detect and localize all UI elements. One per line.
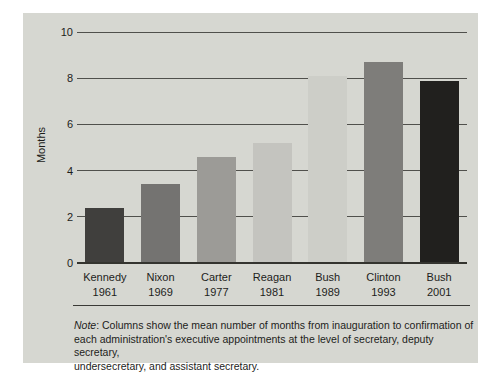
y-axis-title: Months xyxy=(35,127,47,163)
x-label-kennedy-1961: Kennedy1961 xyxy=(77,270,133,300)
president-name: Nixon xyxy=(133,270,189,285)
note-line2: each administration's executive appointm… xyxy=(74,333,434,359)
inauguration-year: 1961 xyxy=(77,285,133,300)
gridline-6 xyxy=(77,124,467,125)
bar-bush-1989 xyxy=(308,76,347,263)
president-name: Reagan xyxy=(244,270,300,285)
gridline-10 xyxy=(77,32,467,33)
president-name: Kennedy xyxy=(77,270,133,285)
inauguration-year: 2001 xyxy=(411,285,467,300)
inauguration-year: 1969 xyxy=(133,285,189,300)
y-tick-label-4: 4 xyxy=(47,165,73,177)
y-tick-label-8: 8 xyxy=(47,72,73,84)
bar-nixon-1969 xyxy=(141,184,180,263)
president-name: Clinton xyxy=(356,270,412,285)
x-label-bush-2001: Bush2001 xyxy=(411,270,467,300)
y-tick-label-6: 6 xyxy=(47,118,73,130)
note-label: Note xyxy=(74,319,96,331)
note-line3: undersecretary, and assistant secretary. xyxy=(74,360,259,372)
inauguration-year: 1977 xyxy=(188,285,244,300)
bar-bush-2001 xyxy=(420,81,459,263)
x-label-reagan-1981: Reagan1981 xyxy=(244,270,300,300)
x-label-nixon-1969: Nixon1969 xyxy=(133,270,189,300)
x-label-clinton-1993: Clinton1993 xyxy=(356,270,412,300)
inauguration-year: 1981 xyxy=(244,285,300,300)
chart-panel: Months 0246810 Kennedy1961Nixon1969Carte… xyxy=(23,13,478,363)
bar-kennedy-1961 xyxy=(85,208,124,263)
note-separator xyxy=(73,305,470,306)
president-name: Bush xyxy=(411,270,467,285)
bar-clinton-1993 xyxy=(364,62,403,263)
x-label-bush-1989: Bush1989 xyxy=(300,270,356,300)
x-label-carter-1977: Carter1977 xyxy=(188,270,244,300)
bar-reagan-1981 xyxy=(253,143,292,263)
president-name: Carter xyxy=(188,270,244,285)
inauguration-year: 1989 xyxy=(300,285,356,300)
y-tick-label-10: 10 xyxy=(47,26,73,38)
president-name: Bush xyxy=(300,270,356,285)
note-text: Note: Columns show the mean number of mo… xyxy=(74,319,476,374)
y-tick-label-0: 0 xyxy=(47,257,73,269)
y-tick-label-2: 2 xyxy=(47,211,73,223)
x-axis-line xyxy=(77,262,467,264)
inauguration-year: 1993 xyxy=(356,285,412,300)
bar-carter-1977 xyxy=(197,157,236,263)
gridline-8 xyxy=(77,78,467,79)
note-line1: : Columns show the mean number of months… xyxy=(96,319,473,331)
